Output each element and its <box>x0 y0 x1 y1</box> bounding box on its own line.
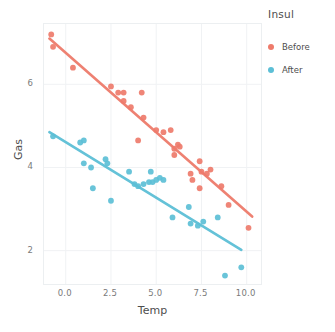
y-tick-label: 4 <box>27 161 33 171</box>
legend: Insul BeforeAfter <box>268 8 334 88</box>
data-point-before <box>197 158 203 164</box>
data-point-after <box>188 221 194 227</box>
data-point-before <box>153 127 159 133</box>
data-point-before <box>197 185 203 191</box>
data-point-after <box>104 160 110 166</box>
legend-item-after[interactable]: After <box>268 65 334 75</box>
data-point-before <box>218 183 224 189</box>
data-point-after <box>108 198 114 204</box>
data-point-after <box>215 214 221 220</box>
data-point-after <box>90 185 96 191</box>
x-axis-title: Temp <box>43 304 262 317</box>
data-point-before <box>171 152 177 158</box>
legend-item-label: Before <box>282 42 310 52</box>
data-point-before <box>168 127 174 133</box>
y-tick-label: 6 <box>27 78 33 88</box>
fit-line-before <box>49 39 252 217</box>
data-point-after <box>200 219 206 225</box>
data-point-after <box>195 223 201 229</box>
data-point-after <box>170 214 176 220</box>
x-tick-label: 0.0 <box>58 288 72 298</box>
legend-title: Insul <box>268 8 334 20</box>
data-point-before <box>128 104 134 110</box>
data-point-before <box>121 90 127 96</box>
data-point-before <box>161 129 167 135</box>
x-tick-label: 2.5 <box>103 288 117 298</box>
data-point-before <box>246 225 252 231</box>
chart-figure: 0.02.55.07.510.0 246 Temp Gas Insul Befo… <box>0 0 335 332</box>
data-point-after <box>81 138 87 144</box>
data-point-after <box>81 160 87 166</box>
legend-item-label: After <box>282 65 302 75</box>
data-point-before <box>199 169 205 175</box>
data-point-after <box>148 169 154 175</box>
data-point-before <box>135 138 141 144</box>
data-point-after <box>186 204 192 210</box>
legend-item-before[interactable]: Before <box>268 42 334 52</box>
x-tick-label: 7.5 <box>193 288 207 298</box>
x-tick-label: 5.0 <box>148 288 162 298</box>
data-point-before <box>50 44 56 50</box>
data-point-before <box>115 90 121 96</box>
data-point-before <box>226 202 232 208</box>
data-points <box>48 31 251 278</box>
data-point-after <box>141 181 147 187</box>
x-tick-label: 10.0 <box>236 288 256 298</box>
y-tick-label: 2 <box>27 245 33 255</box>
legend-marker-circle-icon <box>268 67 274 73</box>
data-point-before <box>190 177 196 183</box>
data-point-before <box>139 90 145 96</box>
data-point-before <box>121 98 127 104</box>
data-point-before <box>48 31 54 37</box>
plot-canvas <box>44 24 262 285</box>
y-axis-title: Gas <box>12 120 25 180</box>
data-point-after <box>126 169 132 175</box>
data-point-before <box>188 171 194 177</box>
data-point-before <box>108 83 114 89</box>
plot-panel <box>43 23 262 285</box>
data-point-before <box>177 144 183 150</box>
data-point-after <box>238 264 244 270</box>
data-point-before <box>208 167 214 173</box>
data-point-before <box>141 115 147 121</box>
legend-items: BeforeAfter <box>268 42 334 75</box>
data-point-after <box>50 133 56 139</box>
legend-marker-circle-icon <box>268 44 274 50</box>
data-point-after <box>161 177 167 183</box>
data-point-after <box>88 165 94 171</box>
data-point-before <box>70 65 76 71</box>
data-point-after <box>222 273 228 279</box>
fit-line-after <box>49 132 241 250</box>
data-point-after <box>135 183 141 189</box>
